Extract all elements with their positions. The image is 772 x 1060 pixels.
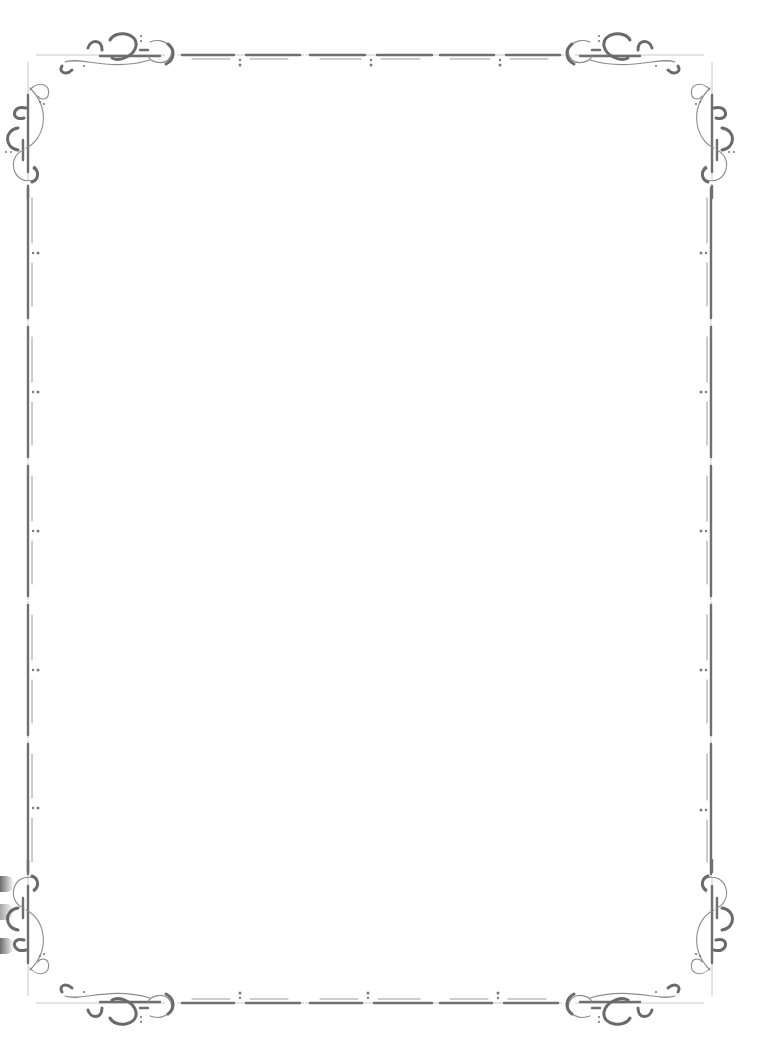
bottom-right-flourish-icon: [567, 860, 733, 1024]
border-segment: [700, 184, 712, 322]
border-segment: [700, 601, 712, 739]
border-segment: [28, 184, 40, 322]
border-segment: [700, 462, 712, 600]
border-segment: [178, 55, 304, 67]
top-right-flourish-icon: [567, 34, 735, 198]
border-segment: [436, 992, 562, 1004]
bottom-left-flourish-icon: [8, 860, 174, 1024]
border-segment: [28, 323, 40, 461]
border-segment: [28, 740, 40, 878]
border-segment: [700, 323, 712, 461]
right-border-segments: [700, 184, 712, 878]
border-segment: [28, 462, 40, 600]
border-segment: [306, 55, 436, 67]
border-segment: [178, 992, 304, 1004]
border-segment: [700, 740, 712, 878]
border-segment: [28, 601, 40, 739]
ornamental-frame-svg: [0, 0, 772, 1060]
left-border-segments: [28, 184, 40, 878]
border-segment: [306, 992, 436, 1004]
bottom-border-segments: [178, 992, 562, 1004]
border-segment: [436, 55, 564, 67]
top-left-flourish-icon: [5, 34, 173, 198]
top-border-segments: [178, 55, 564, 67]
